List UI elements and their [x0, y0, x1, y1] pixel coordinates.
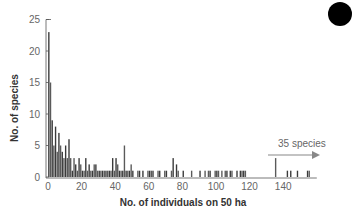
x-tick-label: 20: [76, 181, 88, 192]
bar: [65, 146, 66, 178]
bar: [97, 171, 98, 177]
bar: [230, 171, 231, 177]
bar: [137, 171, 138, 177]
bar: [231, 171, 232, 177]
bar: [90, 171, 91, 177]
bar: [82, 171, 83, 177]
bar: [122, 171, 123, 177]
bar: [120, 171, 121, 177]
bar: [57, 152, 58, 177]
bar: [115, 158, 116, 177]
bar: [62, 152, 63, 177]
bar: [110, 171, 111, 177]
bar: [48, 32, 49, 177]
bar: [149, 171, 150, 177]
bar: [107, 171, 108, 177]
x-tick-label: 0: [45, 181, 51, 192]
bar: [139, 171, 140, 177]
bar: [243, 171, 244, 177]
y-tick-label: 15: [29, 77, 41, 88]
y-tick-label: 25: [29, 14, 41, 25]
bar: [114, 171, 115, 177]
bar: [60, 146, 61, 178]
bar: [63, 158, 64, 177]
bar: [287, 171, 288, 177]
bar: [172, 158, 173, 177]
bar: [159, 171, 160, 177]
bar: [157, 171, 158, 177]
y-tick-label: 5: [34, 140, 40, 151]
bar: [102, 171, 103, 177]
bar: [80, 164, 81, 177]
bar: [83, 171, 84, 177]
bar: [226, 171, 227, 177]
bar: [183, 171, 184, 177]
bar: [191, 171, 192, 177]
bar: [309, 171, 310, 177]
bar: [78, 158, 79, 177]
x-tick-label: 120: [241, 181, 258, 192]
bar: [99, 171, 100, 177]
bar: [94, 164, 95, 177]
bar: [240, 171, 241, 177]
bar: [297, 171, 298, 177]
bar: [100, 171, 101, 177]
y-tick-label: 10: [29, 109, 41, 120]
bar: [124, 146, 125, 178]
bar: [290, 171, 291, 177]
bar: [75, 164, 76, 177]
bar: [127, 171, 128, 177]
bar: [132, 171, 133, 177]
bar: [70, 158, 71, 177]
bar: [52, 120, 53, 177]
bar: [142, 171, 143, 177]
bar: [275, 158, 276, 177]
x-axis-label: No. of individuals on 50 ha: [120, 197, 247, 208]
bar: [214, 171, 215, 177]
bar: [77, 171, 78, 177]
bar: [112, 158, 113, 177]
bar: [209, 171, 210, 177]
bar: [241, 171, 242, 177]
x-tick-label: 60: [143, 181, 155, 192]
bar: [164, 171, 165, 177]
bar: [147, 171, 148, 177]
bar: [245, 171, 246, 177]
bar: [129, 171, 130, 177]
bar: [176, 164, 177, 177]
bar: [68, 139, 69, 177]
bar: [151, 171, 152, 177]
bar: [58, 133, 59, 177]
bar: [130, 164, 131, 177]
arrow-head-icon: [312, 151, 320, 159]
bar: [199, 171, 200, 177]
bar: [92, 171, 93, 177]
y-tick-label: 20: [29, 46, 41, 57]
bar: [95, 164, 96, 177]
bar: [50, 83, 51, 178]
bar: [105, 171, 106, 177]
x-tick-label: 80: [177, 181, 189, 192]
x-tick-label: 100: [208, 181, 225, 192]
black-circle-marker: [328, 2, 352, 26]
bar: [67, 158, 68, 177]
bar: [88, 164, 89, 177]
bar: [218, 171, 219, 177]
bar: [85, 158, 86, 177]
x-tick-label: 140: [275, 181, 292, 192]
bar: [152, 171, 153, 177]
bar: [236, 171, 237, 177]
annotation-label: 35 species: [278, 138, 326, 149]
bar: [53, 146, 54, 178]
bar: [166, 171, 167, 177]
bar: [55, 127, 56, 177]
bar: [117, 164, 118, 177]
bar: [225, 171, 226, 177]
y-tick-label: 0: [34, 172, 40, 183]
bar: [208, 171, 209, 177]
bar: [104, 171, 105, 177]
bar: [72, 171, 73, 177]
bar: [119, 171, 120, 177]
bar: [178, 171, 179, 177]
